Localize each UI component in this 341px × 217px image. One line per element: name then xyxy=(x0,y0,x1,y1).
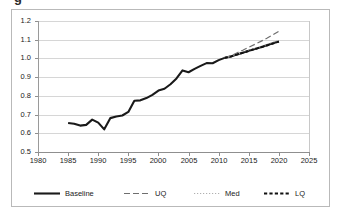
y-tick-label: 0.7 xyxy=(5,111,31,119)
legend-item-lq[interactable]: LQ xyxy=(264,185,305,201)
legend-label: LQ xyxy=(295,189,305,198)
chart-screenshot: g 0.50.60.70.80.91.01.11.2 1980198519901… xyxy=(0,0,341,217)
legend-item-uq[interactable]: UQ xyxy=(124,185,166,201)
series-lines xyxy=(38,21,309,152)
plot-right-border xyxy=(309,21,310,152)
legend-item-baseline[interactable]: Baseline xyxy=(34,185,94,201)
y-tick-label: 0.5 xyxy=(5,148,31,156)
y-tick-label: 1.0 xyxy=(5,54,31,62)
x-tick-mark xyxy=(219,153,220,156)
x-tick-mark xyxy=(98,153,99,156)
legend-item-med[interactable]: Med xyxy=(194,185,240,201)
chart-legend: BaselineUQMedLQ xyxy=(12,185,329,201)
legend-swatch-baseline-icon xyxy=(34,189,60,198)
legend-label: Baseline xyxy=(65,189,94,198)
y-tick-label: 0.9 xyxy=(5,73,31,81)
x-tick-mark xyxy=(38,153,39,156)
cut-off-glyph: g xyxy=(14,0,22,4)
x-tick-label: 2025 xyxy=(291,156,327,165)
y-tick-label: 1.1 xyxy=(5,36,31,44)
legend-swatch-lq-icon xyxy=(264,189,290,198)
x-tick-mark xyxy=(189,153,190,156)
legend-swatch-uq-icon xyxy=(124,189,150,198)
x-tick-mark xyxy=(249,153,250,156)
x-tick-mark xyxy=(309,153,310,156)
legend-label: Med xyxy=(225,189,240,198)
x-tick-mark xyxy=(128,153,129,156)
x-tick-mark xyxy=(158,153,159,156)
y-tick-label: 0.8 xyxy=(5,92,31,100)
legend-label: UQ xyxy=(155,189,166,198)
x-tick-mark xyxy=(279,153,280,156)
x-tick-mark xyxy=(68,153,69,156)
y-tick-label: 1.2 xyxy=(5,17,31,25)
series-line-baseline xyxy=(68,41,279,129)
y-tick-label: 0.6 xyxy=(5,129,31,137)
legend-swatch-med-icon xyxy=(194,189,220,198)
plot-bottom-border xyxy=(38,152,310,153)
